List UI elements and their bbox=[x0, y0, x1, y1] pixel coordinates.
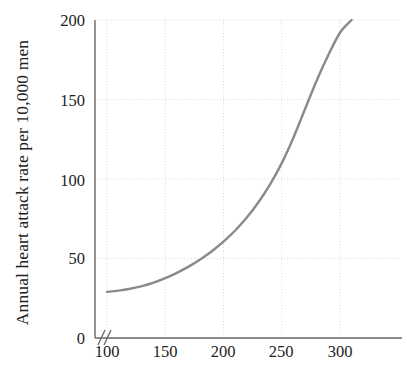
chart-figure: Annual heart attack rate per 10,000 men … bbox=[0, 0, 407, 366]
gridlines bbox=[95, 20, 402, 338]
plot-area bbox=[0, 0, 407, 366]
axis-spines bbox=[95, 20, 402, 338]
data-curve-line bbox=[107, 20, 352, 292]
